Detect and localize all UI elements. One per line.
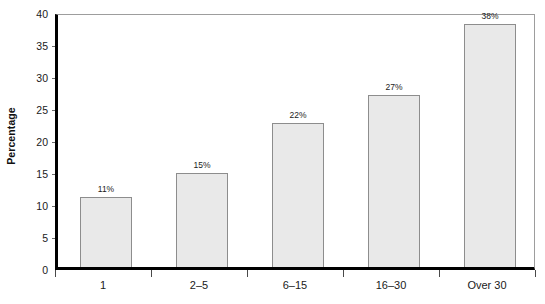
y-axis-tick-label: 0 — [20, 265, 48, 276]
bar-value-label: 11% — [81, 185, 131, 194]
y-axis-title-label: Percentage — [5, 107, 17, 165]
x-axis-category-label: 6–15 — [247, 280, 343, 291]
bar-value-label: 15% — [177, 161, 227, 170]
y-axis-tick-label: 5 — [20, 233, 48, 244]
y-axis-tick-label: 10 — [20, 201, 48, 212]
x-axis-category-label: 16–30 — [343, 280, 439, 291]
x-axis-tick — [55, 270, 56, 277]
bar-chart: Percentage 0510152025303540 11%15%22%27%… — [0, 0, 545, 304]
x-axis-tick — [247, 270, 248, 277]
bar[interactable]: 22% — [272, 123, 324, 267]
x-axis-tick — [535, 270, 536, 277]
y-axis-tick-label: 15 — [20, 169, 48, 180]
x-axis-category-label: 2–5 — [151, 280, 247, 291]
plot-area: 11%15%22%27%38% — [55, 14, 535, 270]
bar-value-label: 27% — [369, 83, 419, 92]
y-axis-tick-label: 40 — [20, 9, 48, 20]
bar[interactable]: 11% — [80, 197, 132, 267]
x-axis-tick — [343, 270, 344, 277]
bar-value-label: 22% — [273, 111, 323, 120]
bar-value-label: 38% — [465, 12, 515, 21]
bar[interactable]: 27% — [368, 95, 420, 267]
plot-inner: 11%15%22%27%38% — [58, 15, 534, 267]
x-axis-category-label: Over 30 — [439, 280, 535, 291]
y-axis-title: Percentage — [0, 0, 22, 272]
bar[interactable]: 15% — [176, 173, 228, 267]
y-axis-tick-label: 25 — [20, 105, 48, 116]
y-axis-tick-label: 30 — [20, 73, 48, 84]
y-axis-tick-label: 20 — [20, 137, 48, 148]
x-axis-tick — [439, 270, 440, 277]
x-axis-tick — [151, 270, 152, 277]
bar[interactable]: 38% — [464, 24, 516, 267]
x-axis-category-label: 1 — [55, 280, 151, 291]
y-axis-tick-label: 35 — [20, 41, 48, 52]
